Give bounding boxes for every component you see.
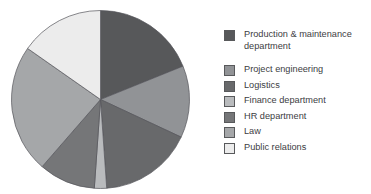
chart-legend: Production & maintenance departmentProje… [224, 29, 366, 157]
legend-item: Logistics [224, 80, 366, 92]
pie-chart-figure: Production & maintenance departmentProje… [0, 0, 371, 194]
legend-swatch-icon [224, 112, 235, 123]
legend-swatch-icon [224, 65, 235, 76]
legend-item: Production & maintenance department [224, 29, 366, 52]
pie-chart [10, 9, 191, 190]
legend-label: Finance department [244, 95, 364, 107]
legend-swatch-icon [224, 81, 235, 92]
legend-swatch-icon [224, 143, 235, 154]
legend-label: Logistics [244, 80, 364, 92]
legend-label: Project engineering [244, 64, 364, 76]
legend-item: HR department [224, 111, 366, 123]
legend-label: Public relations [244, 142, 364, 154]
legend-label: HR department [244, 111, 364, 123]
legend-label: Law [244, 126, 364, 138]
legend-swatch-icon [224, 96, 235, 107]
legend-item: Project engineering [224, 64, 366, 76]
legend-label: Production & maintenance department [244, 29, 364, 52]
legend-item: Law [224, 126, 366, 138]
legend-swatch-icon [224, 127, 235, 138]
legend-item: Finance department [224, 95, 366, 107]
legend-item: Public relations [224, 142, 366, 154]
legend-swatch-icon [224, 30, 235, 41]
